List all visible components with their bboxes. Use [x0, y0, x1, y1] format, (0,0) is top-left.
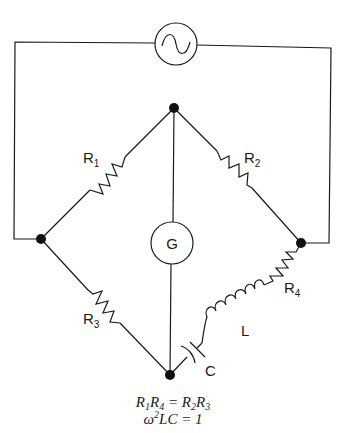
label-l: L [241, 322, 249, 339]
resistor-r4 [264, 243, 301, 285]
node-bottom [165, 370, 175, 380]
galvanometer-upper-lead [173, 108, 174, 222]
bridge-circuit-diagram: G R1 R2 R3 R4 L C R1R4 = R2R3 ω2LC = 1 [0, 0, 346, 433]
capacitor-c [170, 342, 205, 375]
ac-source-icon [155, 23, 197, 65]
galvanometer: G [151, 222, 193, 264]
inductor-l [202, 280, 264, 343]
resistor-r1 [41, 108, 174, 239]
label-r4: R4 [284, 279, 301, 299]
node-left [36, 234, 46, 244]
node-top [169, 103, 179, 113]
equation-resonance: ω2LC = 1 [143, 409, 202, 427]
label-c: C [205, 362, 216, 379]
galvanometer-lower-lead [170, 264, 171, 375]
label-r1: R1 [83, 149, 100, 169]
label-r2: R2 [244, 149, 261, 169]
resistor-r3 [41, 239, 170, 375]
galvanometer-label: G [166, 235, 178, 252]
node-right [296, 238, 306, 248]
equation-balance: R1R4 = R2R3 [135, 394, 210, 412]
label-r3: R3 [83, 310, 100, 330]
resistor-r2 [174, 108, 301, 243]
